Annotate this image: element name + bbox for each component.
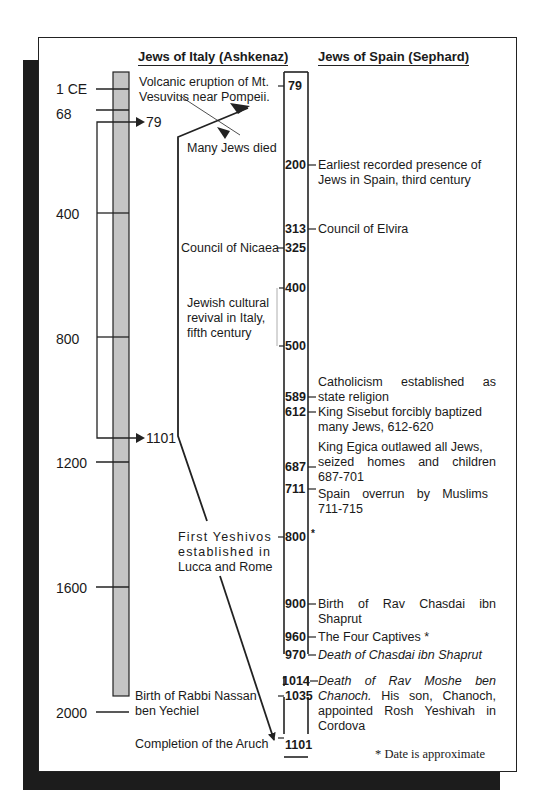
zoom-mark-1101: 1101 [146,430,176,446]
year-79: 79 [288,79,302,93]
event-vesuvius: Volcanic eruption of Mt.Vesuvius near Po… [139,75,270,105]
zoom-mark-79: 79 [146,114,162,130]
italy-guide-line [178,108,274,740]
year-589: 589 [285,390,306,404]
scale-label-1600: 1600 [56,580,87,596]
header-spain: Jews of Spain (Sephard) [318,49,469,66]
event-catholicism: Catholicism established asstate religion [318,375,496,405]
event-death-moshe: Death of Rav Moshe ben Chanoch. His son,… [318,674,496,734]
event-council-nicaea: Council of Nicaea [181,241,279,256]
arrow-79-icon [136,117,145,127]
event-four-captives: The Four Captives * [318,630,429,645]
year-800-approx-mark: * [311,528,315,539]
event-birth-chasdai: Birth of Rav Chasdai ibnShaprut [318,597,496,627]
event-cultural-revival: Jewish culturalrevival in Italy,fifth ce… [187,296,269,341]
arrow-down-icon [217,127,230,139]
scale-label-68: 68 [56,106,72,122]
header-italy: Jews of Italy (Ashkenaz) [138,49,288,66]
scale-label-2000: 2000 [56,705,87,721]
year-800: 800 [285,530,306,544]
year-400: 400 [285,281,306,295]
scale-label-1200: 1200 [56,455,87,471]
year-500: 500 [285,339,306,353]
event-sisebut: King Sisebut forcibly baptizedmany Jews,… [318,405,482,435]
year-325: 325 [285,241,306,255]
event-council-elvira: Council of Elvira [318,222,408,237]
event-first-yeshivos: First Yeshivosestablished inLucca and Ro… [178,530,273,575]
year-200: 200 [285,158,306,172]
year-1035: 1035 [285,689,313,703]
year-313: 313 [285,222,306,236]
year-687: 687 [285,460,306,474]
year-900: 900 [285,597,306,611]
event-muslim-conquest: Spain overrun by Muslims711-715 [318,487,488,517]
year-970: 970 [285,648,306,662]
event-earliest-presence: Earliest recorded presence ofJews in Spa… [318,158,481,188]
year-1101: 1101 [285,738,312,752]
scale-label-1ce: 1 CE [56,81,87,97]
event-birth-nassan: Birth of Rabbi Nassanben Yechiel [135,689,257,719]
event-aruch-completion: Completion of the Aruch [135,737,268,752]
year-1014: 1014 [282,674,310,688]
year-960: 960 [285,630,306,644]
footnote: * Date is approximate [375,747,485,762]
scale-label-800: 800 [56,331,79,347]
arrow-1101-icon [136,433,145,443]
event-egica: King Egica outlawed all Jews,seized home… [318,440,496,485]
year-711: 711 [285,482,305,496]
event-many-jews-died: Many Jews died [187,141,277,156]
scale-bar [113,72,129,696]
year-612: 612 [285,405,306,419]
event-death-chasdai: Death of Chasdai ibn Shaprut [318,648,482,663]
scale-label-400: 400 [56,206,79,222]
